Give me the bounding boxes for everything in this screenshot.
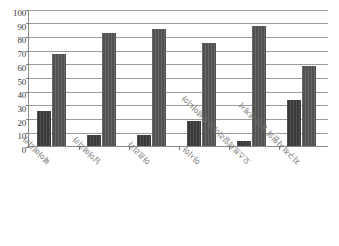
plot-wrapper: 0102030405060708090100 북아메리카남아메리카아프리카아시아… <box>0 0 339 246</box>
x-axis-category-label: 아시아 <box>181 144 202 165</box>
bars-layer <box>29 10 328 146</box>
bar-chart-figure: 0102030405060708090100 북아메리카남아메리카아프리카아시아… <box>0 0 339 246</box>
bar <box>137 135 151 146</box>
bar <box>187 121 201 146</box>
y-tick-label: 0 <box>2 146 26 155</box>
y-tick-label: 40 <box>2 91 26 100</box>
plot-area <box>28 10 328 147</box>
y-axis-tick-labels: 0102030405060708090100 <box>2 4 26 150</box>
bar <box>302 66 316 145</box>
bar <box>87 135 101 146</box>
y-tick-label: 80 <box>2 36 26 45</box>
y-tick-label: 20 <box>2 119 26 128</box>
x-tick-mark <box>179 146 180 150</box>
bar <box>287 100 301 145</box>
y-tick-label: 50 <box>2 78 26 87</box>
y-tick-label: 70 <box>2 50 26 59</box>
bar <box>37 111 51 145</box>
y-tick-label: 90 <box>2 23 26 32</box>
bar <box>102 33 116 145</box>
y-tick-label: 60 <box>2 64 26 73</box>
bar <box>152 29 166 145</box>
y-tick-label: 30 <box>2 105 26 114</box>
bar <box>52 54 66 146</box>
y-tick-label: 100 <box>2 9 26 18</box>
